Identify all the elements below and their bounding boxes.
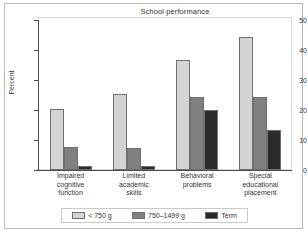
y-axis-tick [34, 20, 38, 21]
legend-swatch [205, 212, 218, 219]
y-axis-tick [34, 140, 38, 141]
category-label-line: placement [229, 189, 292, 198]
bar-group [113, 20, 155, 170]
bar [267, 130, 281, 170]
legend-label: < 750 g [88, 212, 112, 219]
category-label-line: cognitive [39, 181, 102, 190]
x-axis-category-label: Limitedacademicskills [102, 172, 165, 198]
category-label-line: skills [102, 189, 165, 198]
bar [64, 147, 78, 170]
category-label-line: Behavioral [166, 172, 229, 181]
legend-item[interactable]: < 750 g [72, 212, 112, 219]
category-label-line: Limited [102, 172, 165, 181]
legend-swatch [132, 212, 145, 219]
chart-title: School performance [60, 7, 290, 16]
bar [50, 109, 64, 171]
y-axis-tick [34, 50, 38, 51]
legend-item[interactable]: 750–1499 g [132, 212, 185, 219]
bar-group [50, 20, 92, 170]
bar [190, 97, 204, 170]
x-axis-category-labels: ImpairedcognitivefunctionLimitedacademic… [39, 172, 292, 208]
x-axis-category-label: Behavioralproblems [166, 172, 229, 189]
y-axis-tick [34, 80, 38, 81]
x-axis-category-label: Specialeducationalplacement [229, 172, 292, 198]
y-axis-tick [34, 170, 38, 171]
bar [204, 110, 218, 170]
x-axis-category-label: Impairedcognitivefunction [39, 172, 102, 198]
category-label-line: educational [229, 181, 292, 190]
bar-group [176, 20, 218, 170]
bar [113, 94, 127, 171]
category-label-line: function [39, 189, 102, 198]
bar [176, 60, 190, 170]
bar [127, 148, 141, 171]
category-label-line: Impaired [39, 172, 102, 181]
bar [141, 166, 155, 170]
bar [239, 37, 253, 170]
legend-label: Term [221, 212, 237, 219]
y-axis-title: Percent [8, 53, 15, 113]
chart-legend: < 750 g750–1499 gTerm [61, 208, 248, 223]
legend-swatch [72, 212, 85, 219]
y-axis-tick [34, 110, 38, 111]
legend-item[interactable]: Term [205, 212, 237, 219]
category-label-line: academic [102, 181, 165, 190]
bar [78, 166, 92, 171]
bar [253, 97, 267, 170]
category-label-line: Special [229, 172, 292, 181]
category-label-line: problems [166, 181, 229, 190]
chart-figure: School performance Percent 01020304050 I… [0, 0, 307, 232]
x-axis-line [38, 170, 292, 171]
legend-label: 750–1499 g [148, 212, 185, 219]
bar-group [239, 20, 281, 170]
y-axis-labels: Percent [0, 0, 33, 232]
plot-area [39, 20, 292, 170]
